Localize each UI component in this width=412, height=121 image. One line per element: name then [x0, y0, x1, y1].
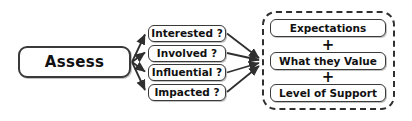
- outcome-node-expectations[interactable]: Expectations: [270, 19, 386, 37]
- arrow-assess-to-interested: [132, 35, 145, 63]
- assess-node[interactable]: Assess: [18, 46, 131, 78]
- question-node-influential[interactable]: Influential ?: [148, 64, 226, 81]
- arrow-influential-to-outcomes: [227, 63, 259, 73]
- diagram-canvas: Assess Interested ? Involved ? Influenti…: [0, 0, 412, 121]
- question-node-interested[interactable]: Interested ?: [148, 25, 226, 42]
- plus-operator-icon: +: [270, 38, 386, 52]
- arrow-interested-to-outcomes: [227, 34, 259, 59]
- question-node-involved[interactable]: Involved ?: [148, 45, 226, 62]
- arrow-involved-to-outcomes: [227, 53, 259, 60]
- question-node-impacted[interactable]: Impacted ?: [148, 84, 226, 101]
- arrow-assess-to-influential: [132, 62, 145, 72]
- arrow-assess-to-involved: [132, 53, 145, 63]
- arrow-assess-to-impacted: [132, 62, 145, 90]
- outcome-node-level-of-support[interactable]: Level of Support: [270, 84, 386, 102]
- arrow-impacted-to-outcomes: [227, 66, 259, 92]
- plus-operator-icon: +: [270, 70, 386, 84]
